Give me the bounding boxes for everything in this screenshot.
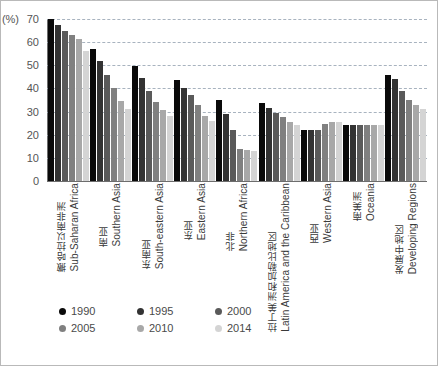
axis-baseline bbox=[47, 181, 427, 182]
category-label-6: Latin America and the Caribbean拉丁美洲和加勒比地… bbox=[267, 183, 291, 295]
category-label-en: Sub-Saharan Africa bbox=[69, 183, 80, 272]
bar-group-3 bbox=[132, 19, 173, 181]
bar-2005 bbox=[406, 100, 412, 181]
bar-2000 bbox=[188, 95, 194, 181]
legend-swatch-icon bbox=[59, 325, 66, 332]
legend-item-2005[interactable]: 2005 bbox=[59, 323, 137, 334]
bar-2010 bbox=[413, 105, 419, 181]
category-label-5: Northern Africa北非 bbox=[225, 183, 249, 295]
legend-item-2000[interactable]: 2000 bbox=[215, 306, 289, 317]
bar-group-9 bbox=[385, 19, 426, 181]
category-label-en: Eastern Asia bbox=[196, 183, 207, 240]
legend-item-2014[interactable]: 2014 bbox=[215, 323, 289, 334]
category-label-zh: 南亚 bbox=[98, 183, 109, 247]
chart-legend: 199019952000200520102014 bbox=[59, 303, 289, 337]
bar-1990 bbox=[174, 80, 180, 181]
y-axis-tick-60: 60 bbox=[27, 37, 39, 48]
bar-group-5 bbox=[216, 19, 257, 181]
legend-label: 1995 bbox=[149, 306, 173, 317]
bar-1990 bbox=[90, 49, 96, 181]
bar-1990 bbox=[216, 100, 222, 181]
category-label-zh: 西亚 bbox=[309, 183, 320, 243]
y-axis-unit-label: (%) bbox=[2, 14, 19, 25]
category-label-7: Western Asia西亚 bbox=[309, 183, 333, 295]
bar-1995 bbox=[139, 78, 145, 181]
plot-area bbox=[47, 19, 427, 181]
bar-1995 bbox=[223, 114, 229, 181]
bar-2000 bbox=[399, 91, 405, 181]
y-axis-tick-10: 10 bbox=[27, 152, 39, 163]
category-label-en: Western Asia bbox=[322, 183, 333, 243]
bar-2005 bbox=[195, 105, 201, 181]
category-label-4: Eastern Asia东亚 bbox=[183, 183, 207, 295]
bar-2000 bbox=[146, 91, 152, 181]
bar-2014 bbox=[294, 125, 300, 181]
bar-2010 bbox=[202, 116, 208, 181]
bar-1990 bbox=[385, 75, 391, 181]
bar-2000 bbox=[315, 130, 321, 181]
category-label-zh: 东南亚 bbox=[141, 183, 152, 269]
bar-2010 bbox=[287, 122, 293, 181]
category-label-zh: 北非 bbox=[225, 183, 236, 251]
category-label-3: South-eastern Asia东南亚 bbox=[141, 183, 165, 295]
bar-group-1 bbox=[48, 19, 89, 181]
bar-1990 bbox=[301, 130, 307, 181]
y-axis-tick-0: 0 bbox=[33, 176, 39, 187]
bar-2005 bbox=[280, 117, 286, 181]
bar-2005 bbox=[364, 125, 370, 181]
bar-2014 bbox=[420, 109, 426, 181]
bar-1990 bbox=[48, 19, 54, 181]
y-axis-tick-70: 70 bbox=[27, 14, 39, 25]
y-axis-tick-50: 50 bbox=[27, 60, 39, 71]
legend-item-1990[interactable]: 1990 bbox=[59, 306, 137, 317]
legend-swatch-icon bbox=[137, 308, 144, 315]
category-label-en: Southern Asia bbox=[111, 183, 122, 247]
legend-label: 2005 bbox=[71, 323, 95, 334]
legend-swatch-icon bbox=[137, 325, 144, 332]
bar-2005 bbox=[237, 149, 243, 181]
bar-2014 bbox=[378, 125, 384, 181]
bar-1995 bbox=[350, 125, 356, 181]
chart-figure: (%) 706050403020100 Sub-Saharan Africa撒哈… bbox=[0, 0, 438, 366]
bar-1995 bbox=[181, 88, 187, 181]
bar-1995 bbox=[266, 108, 272, 181]
bar-1990 bbox=[343, 125, 349, 181]
bar-2005 bbox=[111, 88, 117, 181]
y-axis-tick-20: 20 bbox=[27, 129, 39, 140]
bar-2010 bbox=[329, 122, 335, 181]
bar-2000 bbox=[357, 125, 363, 181]
bar-2005 bbox=[69, 35, 75, 181]
bar-2000 bbox=[104, 75, 110, 181]
bar-1995 bbox=[308, 130, 314, 181]
bar-1995 bbox=[55, 25, 61, 181]
bar-2010 bbox=[76, 39, 82, 181]
category-label-en: Oceania bbox=[365, 183, 376, 221]
legend-item-1995[interactable]: 1995 bbox=[137, 306, 215, 317]
bar-2014 bbox=[125, 109, 131, 181]
bar-group-6 bbox=[259, 19, 300, 181]
legend-label: 2014 bbox=[227, 323, 251, 334]
y-axis-tick-40: 40 bbox=[27, 83, 39, 94]
legend-label: 2010 bbox=[149, 323, 173, 334]
bar-group-7 bbox=[301, 19, 342, 181]
bar-2005 bbox=[153, 102, 159, 181]
bar-group-4 bbox=[174, 19, 215, 181]
category-label-zh: 发展中地区 bbox=[394, 183, 405, 274]
category-label-en: South-eastern Asia bbox=[154, 183, 165, 269]
x-axis-category-labels: Sub-Saharan Africa撒哈拉以南非洲Southern Asia南亚… bbox=[47, 183, 427, 295]
legend-label: 2000 bbox=[227, 306, 251, 317]
bar-2014 bbox=[336, 122, 342, 181]
legend-swatch-icon bbox=[215, 308, 222, 315]
bar-2005 bbox=[322, 124, 328, 181]
legend-label: 1990 bbox=[71, 306, 95, 317]
bar-2000 bbox=[230, 130, 236, 181]
legend-swatch-icon bbox=[59, 308, 66, 315]
legend-item-2010[interactable]: 2010 bbox=[137, 323, 215, 334]
category-label-8: Oceania南美洲 bbox=[352, 183, 376, 295]
bar-series-container bbox=[47, 19, 427, 181]
bar-group-8 bbox=[343, 19, 384, 181]
bar-2000 bbox=[273, 113, 279, 181]
bar-2010 bbox=[118, 101, 124, 181]
bar-2014 bbox=[209, 121, 215, 181]
bar-2014 bbox=[83, 51, 89, 181]
